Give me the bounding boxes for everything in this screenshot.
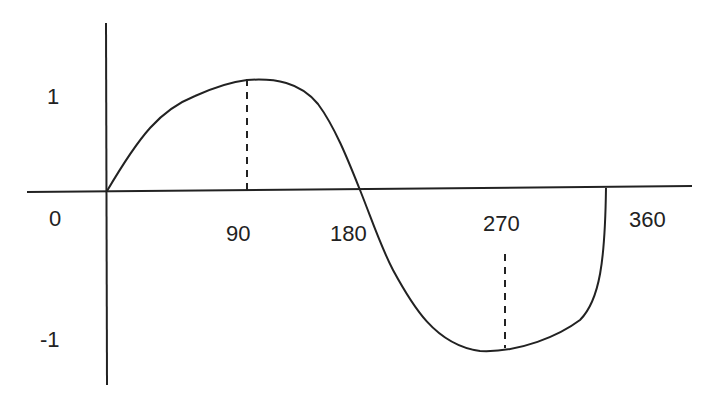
sine-curve xyxy=(107,80,606,352)
x-tick-270: 270 xyxy=(483,213,520,235)
x-tick-90: 90 xyxy=(226,223,250,245)
x-tick-360: 360 xyxy=(629,209,666,231)
y-tick-1: 1 xyxy=(47,86,59,108)
x-tick-180: 180 xyxy=(330,223,367,245)
origin-label: 0 xyxy=(49,208,61,230)
y-tick-neg1: -1 xyxy=(40,329,60,351)
y-axis xyxy=(106,23,107,385)
sine-diagram xyxy=(0,0,703,402)
